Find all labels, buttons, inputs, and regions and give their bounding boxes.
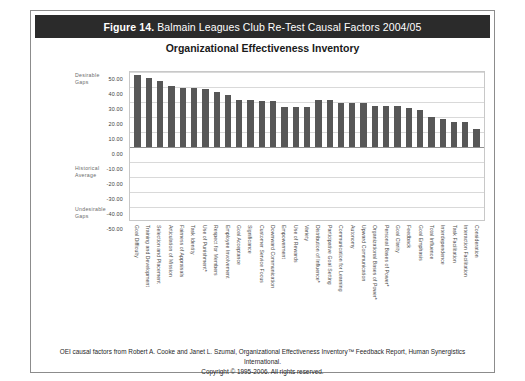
x-axis-slot: Use of Rewards bbox=[290, 223, 301, 333]
bar[interactable] bbox=[360, 103, 366, 147]
figure-title-bar: Figure 14. Balmain Leagues Club Re-Test … bbox=[35, 15, 490, 38]
x-axis-tick-label: Task Facilitation bbox=[452, 225, 458, 263]
bar-slot bbox=[414, 72, 425, 220]
x-axis-slot: Interdependence bbox=[438, 223, 449, 333]
bar[interactable] bbox=[394, 106, 400, 147]
x-axis-tick-label: Use of Punishment* bbox=[202, 225, 208, 272]
x-axis-tick-label: Interdependence bbox=[440, 225, 446, 265]
bar[interactable] bbox=[202, 89, 208, 147]
bar[interactable] bbox=[293, 107, 299, 147]
bar[interactable] bbox=[225, 95, 231, 147]
bar-slot bbox=[347, 72, 358, 220]
x-axis-slot: Interaction Facilitation bbox=[460, 223, 471, 333]
x-axis-tick-label: Downward Communication bbox=[270, 225, 276, 288]
bar[interactable] bbox=[304, 107, 310, 147]
bar[interactable] bbox=[349, 103, 355, 147]
x-axis-slot: Distribution of Influence* bbox=[313, 223, 324, 333]
y-axis-tick-label: -40.00 bbox=[107, 211, 124, 217]
bar-slot bbox=[222, 72, 233, 220]
x-axis-tick-label: Upward Communication bbox=[361, 225, 367, 281]
y-axis-tick-label: 40.00 bbox=[109, 91, 124, 97]
x-axis-tick-label: Goal Clarity bbox=[395, 225, 401, 253]
bar[interactable] bbox=[259, 101, 265, 147]
bar-series bbox=[130, 72, 484, 220]
bar[interactable] bbox=[338, 103, 344, 147]
bar[interactable] bbox=[236, 100, 242, 147]
bar[interactable] bbox=[191, 88, 197, 147]
x-axis-tick-label: Articulation of Mission bbox=[168, 225, 174, 277]
x-axis-tick-label: Consideration bbox=[474, 225, 480, 258]
y-axis-tick-label: 30.00 bbox=[109, 106, 124, 112]
bar-slot bbox=[471, 72, 482, 220]
bar-slot bbox=[290, 72, 301, 220]
x-axis-slot: Organizational Bases of Power* bbox=[370, 223, 381, 333]
bar-slot bbox=[155, 72, 166, 220]
x-axis-slot: Fairness of Appraisals bbox=[176, 223, 187, 333]
bar-slot bbox=[426, 72, 437, 220]
x-axis-tick-label: Task Identity bbox=[190, 225, 196, 255]
bar[interactable] bbox=[372, 106, 378, 147]
bar[interactable] bbox=[383, 106, 389, 147]
bar-slot bbox=[166, 72, 177, 220]
x-axis-tick-label: Participative Goal Setting bbox=[327, 225, 333, 285]
bar-slot bbox=[392, 72, 403, 220]
bar-slot bbox=[234, 72, 245, 220]
bar[interactable] bbox=[327, 100, 333, 147]
bar[interactable] bbox=[462, 122, 468, 147]
bar[interactable] bbox=[451, 122, 457, 147]
bar-slot bbox=[369, 72, 380, 220]
y-axis-tick-label: 10.00 bbox=[109, 136, 124, 142]
bar-slot bbox=[177, 72, 188, 220]
x-axis-tick-label: Employee Involvement bbox=[225, 225, 231, 279]
x-axis-tick-label: Total Influence bbox=[429, 225, 435, 259]
bar-slot bbox=[324, 72, 335, 220]
bar[interactable] bbox=[214, 92, 220, 147]
x-axis-tick-label: Fairness of Appraisals bbox=[179, 225, 185, 277]
x-axis-tick-label: Respect for Members bbox=[213, 225, 219, 276]
footer-copyright-line: Copyright © 1995-2006. All rights reserv… bbox=[41, 367, 484, 377]
bar[interactable] bbox=[281, 107, 287, 147]
bar[interactable] bbox=[428, 117, 434, 147]
bar-slot bbox=[279, 72, 290, 220]
x-axis-tick-label: Goal Acceptance bbox=[236, 225, 242, 265]
bar[interactable] bbox=[406, 108, 412, 147]
x-axis-slot: Downward Communication bbox=[267, 223, 278, 333]
bar-slot bbox=[143, 72, 154, 220]
x-axis-slot: Empowerment bbox=[279, 223, 290, 333]
bar[interactable] bbox=[146, 78, 152, 147]
x-axis-tick-label: Interaction Facilitation bbox=[463, 225, 469, 277]
x-axis-slot: Task Facilitation bbox=[449, 223, 460, 333]
x-axis-tick-label: Organizational Bases of Power* bbox=[372, 225, 378, 300]
y-axis-tick-label: 50.00 bbox=[109, 76, 124, 82]
bar-slot bbox=[188, 72, 199, 220]
x-axis-tick-label: Customer Service Focus bbox=[259, 225, 265, 283]
bar[interactable] bbox=[168, 86, 174, 147]
bar[interactable] bbox=[440, 119, 446, 147]
bar[interactable] bbox=[157, 81, 163, 147]
y-axis-tick-label: 0.00 bbox=[112, 151, 123, 157]
bar[interactable] bbox=[270, 101, 276, 147]
x-axis-tick-label: Feedback bbox=[406, 225, 412, 248]
bar-slot bbox=[437, 72, 448, 220]
bar[interactable] bbox=[473, 129, 479, 147]
x-axis-tick-label: Distribution of Influence* bbox=[315, 225, 321, 283]
bar-slot bbox=[245, 72, 256, 220]
x-axis-slot: Goal Emphasis bbox=[415, 223, 426, 333]
bar[interactable] bbox=[315, 100, 321, 147]
bar-slot bbox=[460, 72, 471, 220]
x-axis-slot: Consideration bbox=[472, 223, 483, 333]
bar-slot bbox=[268, 72, 279, 220]
bar[interactable] bbox=[134, 75, 140, 147]
bar[interactable] bbox=[417, 110, 423, 148]
x-axis-slot: Personal Bases of Power* bbox=[381, 223, 392, 333]
bar-slot bbox=[358, 72, 369, 220]
x-axis-tick-label: Selection and Placement bbox=[156, 225, 162, 284]
x-axis-slot: Articulation of Mission bbox=[165, 223, 176, 333]
bar[interactable] bbox=[180, 88, 186, 147]
x-axis-tick-label: Autonomy bbox=[350, 225, 356, 249]
y-axis-tick-label: 20.00 bbox=[109, 121, 124, 127]
x-axis-slot: Participative Goal Setting bbox=[324, 223, 335, 333]
x-axis-slot: Goal Clarity bbox=[392, 223, 403, 333]
bar[interactable] bbox=[247, 100, 253, 147]
bar-slot bbox=[381, 72, 392, 220]
